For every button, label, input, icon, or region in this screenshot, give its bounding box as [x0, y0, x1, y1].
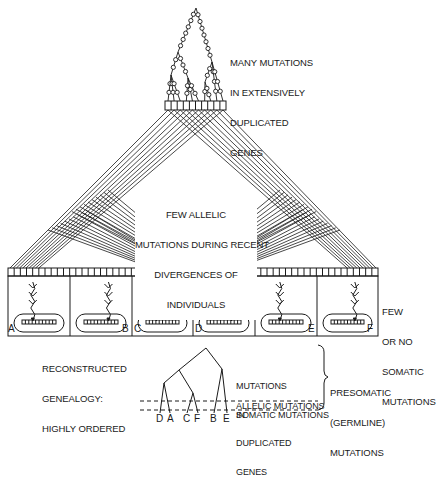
- label-line: MUTATIONS: [236, 382, 291, 392]
- individual-label-d: D: [195, 324, 202, 334]
- label-line: DIVERGENCES OF: [135, 270, 257, 280]
- tree-leaf-e: E: [223, 414, 230, 424]
- label-line: DUPLICATED: [230, 118, 313, 128]
- label-line: PRESOMATIC: [330, 388, 391, 398]
- label-line: GENEALOGY:: [42, 394, 127, 404]
- label-line: GENES: [230, 148, 313, 158]
- label-line: FEW: [382, 307, 436, 317]
- label-line: HIGHLY ORDERED: [42, 424, 127, 434]
- label-mutations-duplicated: MUTATIONS IN DUPLICATED GENES: [236, 363, 291, 479]
- label-line: RECONSTRUCTED: [42, 364, 127, 374]
- label-somatic-mutations: SOMATIC MUTATIONS: [236, 411, 329, 421]
- label-presomatic: PRESOMATIC (GERMLINE) MUTATIONS: [330, 368, 391, 468]
- label-line: (GERMLINE): [330, 418, 391, 428]
- tree-leaf-c: C: [183, 414, 190, 424]
- label-few-allelic: FEW ALLELIC MUTATIONS DURING RECENT DIVE…: [135, 190, 257, 320]
- tree-leaf-b: B: [210, 414, 217, 424]
- individual-label-b: B: [122, 324, 129, 334]
- individual-label-a: A: [8, 324, 15, 334]
- tree-leaf-a: A: [167, 414, 174, 424]
- label-line: MUTATIONS DURING RECENT: [135, 240, 257, 250]
- label-many-mutations: MANY MUTATIONS IN EXTENSIVELY DUPLICATED…: [230, 38, 313, 168]
- label-reconstructed-genealogy: RECONSTRUCTED GENEALOGY: HIGHLY ORDERED: [42, 344, 127, 444]
- tree-leaf-d: D: [156, 414, 163, 424]
- label-line: DUPLICATED: [236, 439, 291, 449]
- individual-label-e: E: [308, 324, 315, 334]
- label-line: IN EXTENSIVELY: [230, 88, 313, 98]
- label-line: MUTATIONS: [330, 448, 391, 458]
- individual-label-f: F: [367, 324, 373, 334]
- label-line: OR NO: [382, 337, 436, 347]
- label-line: FEW ALLELIC: [135, 210, 257, 220]
- label-line: GENES: [236, 468, 291, 478]
- individual-label-c: C: [134, 324, 141, 334]
- label-line: INDIVIDUALS: [135, 300, 257, 310]
- label-line: MANY MUTATIONS: [230, 58, 313, 68]
- tree-leaf-f: F: [194, 414, 200, 424]
